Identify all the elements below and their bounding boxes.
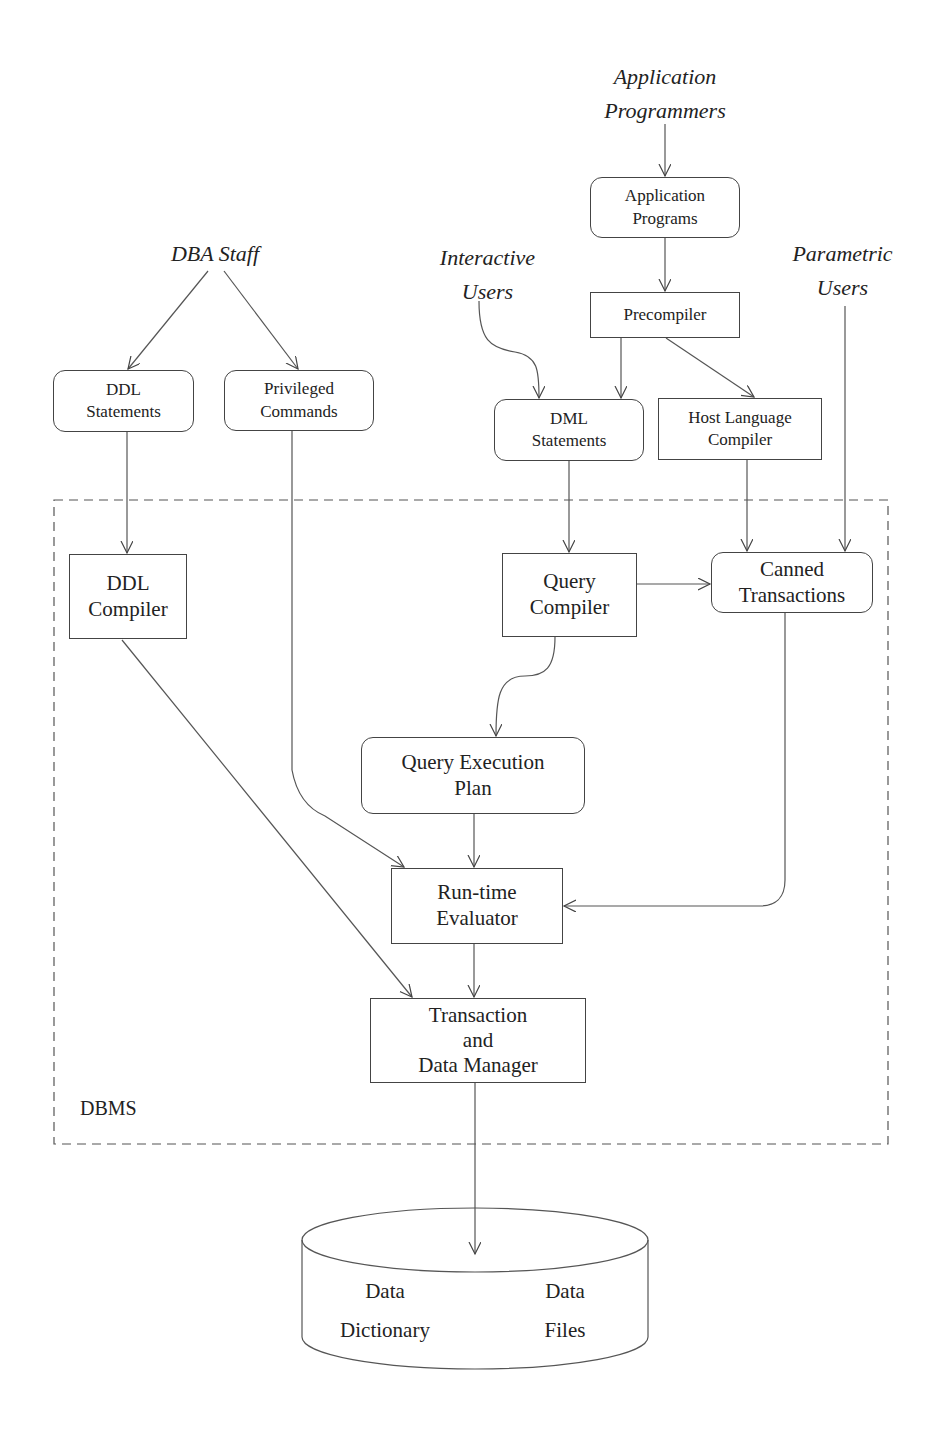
node-label-line: DDL <box>106 379 141 401</box>
node-runtime-evaluator: Run-time Evaluator <box>391 868 563 944</box>
node-label-line: Evaluator <box>436 906 518 932</box>
storage-label-line: Dictionary <box>320 1311 450 1350</box>
node-label-line: Programs <box>632 208 697 230</box>
dbms-boundary-label: DBMS <box>80 1097 137 1120</box>
node-privileged-commands: Privileged Commands <box>224 370 374 431</box>
node-dml-statements: DML Statements <box>494 399 644 461</box>
storage-data-dictionary: Data Dictionary <box>320 1272 450 1350</box>
node-label-line: Transactions <box>739 583 846 609</box>
node-label-line: DML <box>550 408 588 430</box>
edge-dba-to-privileged <box>224 271 298 369</box>
node-label-line: Host Language <box>688 407 791 429</box>
node-host-language-compiler: Host Language Compiler <box>658 398 822 460</box>
actor-parametric-users: Parametric Users <box>780 237 905 305</box>
node-label-line: Privileged <box>264 378 334 400</box>
storage-label-line: Data <box>320 1272 450 1311</box>
actor-label-line: Users <box>780 271 905 305</box>
storage-label-line: Files <box>510 1311 620 1350</box>
node-ddl-statements: DDL Statements <box>53 370 194 432</box>
actor-application-programmers: Application Programmers <box>575 60 755 128</box>
node-label-line: Run-time <box>437 880 516 906</box>
node-label-line: Data Manager <box>418 1053 538 1078</box>
node-label-line: Canned <box>760 557 824 583</box>
actor-label-line: Application <box>575 60 755 94</box>
edge-canned-to-runtime <box>564 613 785 906</box>
edge-precompiler-to-hostlang <box>666 338 754 397</box>
node-query-execution-plan: Query Execution Plan <box>361 737 585 814</box>
node-label-line: DDL <box>106 571 149 597</box>
storage-data-files: Data Files <box>510 1272 620 1350</box>
node-canned-transactions: Canned Transactions <box>711 552 873 613</box>
node-label-line: Query Execution <box>402 750 545 776</box>
edge-dba-to-ddlstmt <box>128 271 208 369</box>
node-label-line: Transaction <box>429 1003 527 1028</box>
edge-ddlcomp-to-tdm <box>122 640 412 997</box>
node-transaction-data-manager: Transaction and Data Manager <box>370 998 586 1083</box>
node-label-line: Commands <box>260 401 337 423</box>
node-label-line: Query <box>543 569 595 595</box>
node-label-line: Compiler <box>88 597 167 623</box>
edge-interactive-to-dml <box>479 301 539 398</box>
node-label-line: Plan <box>454 776 491 802</box>
node-label-line: Compiler <box>708 429 772 451</box>
node-ddl-compiler: DDL Compiler <box>69 554 187 639</box>
node-label-line: Statements <box>86 401 161 423</box>
node-label-line: Application <box>625 185 705 207</box>
node-query-compiler: Query Compiler <box>502 553 637 637</box>
actor-label-line: Users <box>420 275 555 309</box>
actor-label-line: Programmers <box>575 94 755 128</box>
edge-querycomp-to-qep <box>496 637 555 736</box>
actor-interactive-users: Interactive Users <box>420 241 555 309</box>
node-application-programs: Application Programs <box>590 177 740 238</box>
node-label-line: Statements <box>532 430 607 452</box>
node-label-line: Compiler <box>530 595 609 621</box>
actor-label-line: Interactive <box>420 241 555 275</box>
actor-label-line: DBA Staff <box>140 237 290 271</box>
actor-label-line: Parametric <box>780 237 905 271</box>
connector-layer <box>0 0 942 1429</box>
node-label-line: Precompiler <box>623 304 706 326</box>
node-precompiler: Precompiler <box>590 292 740 338</box>
node-label-line: and <box>463 1028 493 1053</box>
storage-label-line: Data <box>510 1272 620 1311</box>
actor-dba-staff: DBA Staff <box>140 237 290 271</box>
